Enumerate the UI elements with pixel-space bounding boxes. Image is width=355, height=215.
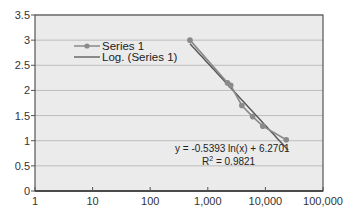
x-tick-label: 1 [32, 195, 38, 207]
legend-label-trendline: Log. (Series 1) [102, 51, 178, 63]
x-tick-label: 100 [141, 195, 159, 207]
data-point [283, 137, 289, 143]
y-tick-label: 2 [24, 84, 30, 96]
data-point [228, 83, 234, 89]
data-point [239, 103, 245, 109]
plot-area [35, 15, 323, 191]
y-tick-label: 0 [24, 185, 30, 197]
data-point [250, 114, 256, 120]
y-tick-label: 1 [24, 135, 30, 147]
y-tick-label: 3.5 [15, 9, 30, 21]
y-tick-label: 0.5 [15, 160, 30, 172]
y-tick-label: 1.5 [15, 110, 30, 122]
y-tick-label: 2.5 [15, 59, 30, 71]
data-point [187, 37, 193, 43]
chart: 00.511.522.533.5 1101001,00010,000100,00… [0, 0, 355, 215]
x-tick-label: 1,000 [194, 195, 222, 207]
y-tick-label: 3 [24, 34, 30, 46]
y-axis-ticks: 00.511.522.533.5 [15, 9, 35, 197]
data-point [260, 123, 266, 129]
x-tick-label: 10,000 [249, 195, 283, 207]
x-tick-label: 100,000 [303, 195, 343, 207]
trendline-equation: y = -0.5393 ln(x) + 6.2701 [175, 143, 290, 154]
x-tick-label: 10 [86, 195, 98, 207]
